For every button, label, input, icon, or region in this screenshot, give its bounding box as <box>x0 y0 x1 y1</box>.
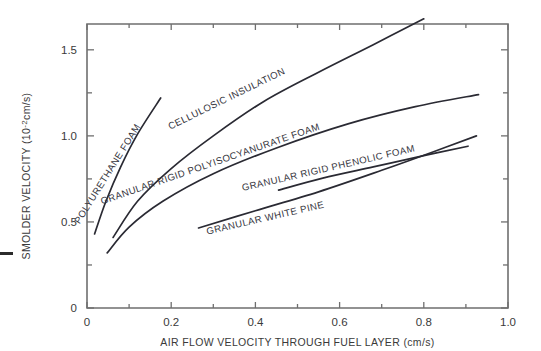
x-tick-label: 1.0 <box>500 316 516 328</box>
y-tick-label: 0 <box>71 302 77 314</box>
x-tick-label: 0.4 <box>247 316 264 328</box>
y-tick-label: 1.5 <box>61 44 77 56</box>
x-tick-label: 0.6 <box>332 316 348 328</box>
y-tick-label: 1.0 <box>61 130 77 142</box>
chart-canvas: 00.20.40.60.81.000.51.01.5POLYURETHANE F… <box>0 0 541 351</box>
x-tick-label: 0.2 <box>163 316 179 328</box>
smolder-velocity-chart: 00.20.40.60.81.000.51.01.5POLYURETHANE F… <box>0 0 541 351</box>
curve-label-4: GRANULAR WHITE PINE <box>205 199 325 237</box>
y-axis-title: SMOLDER VELOCITY (10-2cm/s) <box>20 93 33 260</box>
curve-1 <box>113 19 424 238</box>
plot-frame <box>87 24 508 308</box>
x-axis-title: AIR FLOW VELOCITY THROUGH FUEL LAYER (cm… <box>160 336 434 348</box>
x-tick-label: 0 <box>84 316 90 328</box>
x-tick-label: 0.8 <box>416 316 432 328</box>
